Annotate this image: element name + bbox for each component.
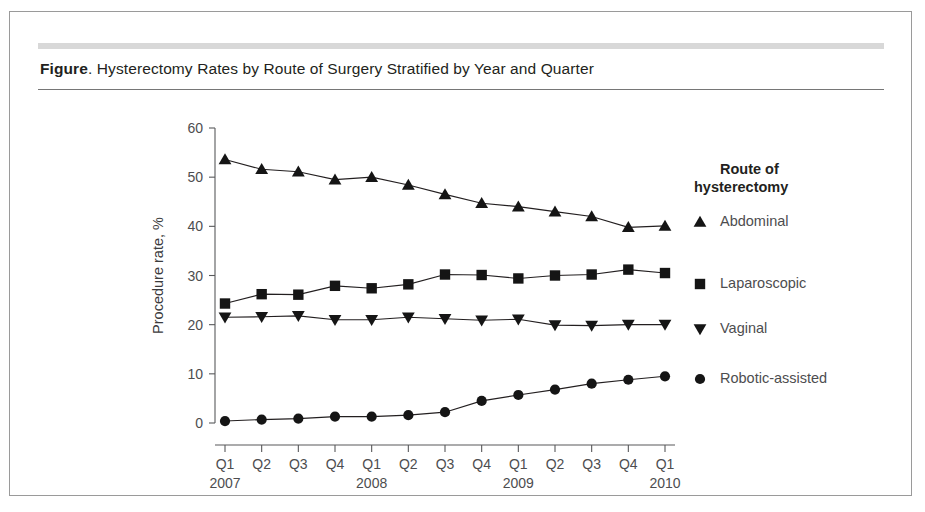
data-point-triangle-down: [365, 315, 378, 326]
series-vaginal: [219, 311, 672, 332]
data-point-circle: [440, 407, 450, 417]
data-point-circle: [587, 379, 597, 389]
data-point-circle: [550, 384, 560, 394]
y-axis-tick-label: 40: [187, 218, 203, 234]
x-axis-quarter-label: Q1: [656, 456, 675, 472]
x-axis-quarter-label: Q3: [436, 456, 455, 472]
x-axis-quarter-label: Q4: [472, 456, 491, 472]
x-axis-quarter-label: Q1: [216, 456, 235, 472]
data-point-circle: [257, 414, 267, 424]
series-abdominal: [219, 153, 672, 232]
data-point-circle: [660, 371, 670, 381]
figure-title: Figure. Hysterectomy Rates by Route of S…: [40, 59, 890, 79]
series-robotic-assisted: [220, 371, 670, 426]
data-point-triangle-down: [659, 320, 672, 331]
data-point-square: [660, 268, 670, 278]
legend-marker-robotic-assisted: [695, 374, 705, 384]
data-point-square: [586, 269, 596, 279]
data-point-square: [256, 289, 266, 299]
y-axis-tick-label: 20: [187, 317, 203, 333]
x-axis-quarter-label: Q4: [326, 456, 345, 472]
data-point-triangle-down: [219, 312, 232, 323]
data-point-triangle-up: [659, 220, 672, 231]
x-axis-quarter-label: Q3: [289, 456, 308, 472]
data-point-triangle-up: [219, 153, 232, 164]
data-point-square: [220, 298, 230, 308]
y-axis-tick-label: 60: [187, 120, 203, 136]
x-axis-quarter-label: Q3: [582, 456, 601, 472]
data-point-circle: [403, 410, 413, 420]
legend-marker-laparoscopic: [695, 279, 705, 289]
series-laparoscopic: [220, 264, 670, 308]
data-point-square: [293, 289, 303, 299]
data-point-square: [366, 283, 376, 293]
x-axis-year-label: 2009: [503, 475, 534, 491]
data-point-circle: [293, 413, 303, 423]
data-point-circle: [330, 412, 340, 422]
data-point-triangle-up: [365, 171, 378, 182]
data-point-circle: [220, 416, 230, 426]
legend-title-line-2: hysterectomy: [694, 179, 788, 195]
data-point-triangle-down: [475, 315, 488, 326]
data-point-triangle-down: [329, 315, 342, 326]
x-axis-quarter-label: Q2: [546, 456, 565, 472]
data-point-triangle-down: [255, 312, 268, 323]
x-axis-quarter-label: Q2: [252, 456, 271, 472]
y-axis-tick-label: 0: [195, 415, 203, 431]
x-axis-year-label: 2008: [356, 475, 387, 491]
data-point-square: [513, 273, 523, 283]
data-point-circle: [623, 375, 633, 385]
data-point-square: [476, 270, 486, 280]
legend-label-robotic-assisted: Robotic-assisted: [720, 370, 827, 386]
data-point-triangle-down: [549, 320, 562, 331]
data-point-square: [623, 264, 633, 274]
x-axis-quarter-label: Q2: [399, 456, 418, 472]
x-axis-year-label: 2007: [209, 475, 240, 491]
data-point-circle: [367, 412, 377, 422]
legend-label-laparoscopic: Laparoscopic: [720, 275, 806, 291]
data-point-circle: [513, 390, 523, 400]
data-point-circle: [477, 396, 487, 406]
figure-card: Figure. Hysterectomy Rates by Route of S…: [9, 11, 912, 496]
data-point-square: [330, 281, 340, 291]
x-axis-quarter-label: Q1: [362, 456, 381, 472]
y-axis-tick-label: 10: [187, 366, 203, 382]
data-point-square: [403, 279, 413, 289]
chart-plot-area: 0102030405060Procedure rate, %Q1Q2Q3Q4Q1…: [20, 92, 900, 492]
title-divider: [38, 89, 884, 90]
data-point-triangle-down: [622, 320, 635, 331]
legend-marker-abdominal: [694, 216, 707, 227]
legend-label-abdominal: Abdominal: [720, 213, 789, 229]
decorative-top-bar: [38, 43, 884, 49]
data-point-triangle-down: [585, 321, 598, 332]
legend-title-line-1: Route of: [720, 161, 779, 177]
legend-label-vaginal: Vaginal: [720, 320, 767, 336]
y-axis-tick-label: 50: [187, 169, 203, 185]
legend-marker-vaginal: [694, 324, 707, 335]
figure-title-text: . Hysterectomy Rates by Route of Surgery…: [88, 60, 594, 77]
y-axis-title: Procedure rate, %: [150, 217, 166, 334]
y-axis-tick-label: 30: [187, 268, 203, 284]
x-axis-quarter-label: Q4: [619, 456, 638, 472]
x-axis-year-label: 2010: [649, 475, 680, 491]
data-point-square: [440, 269, 450, 279]
line-chart: 0102030405060Procedure rate, %Q1Q2Q3Q4Q1…: [20, 92, 900, 492]
x-axis-quarter-label: Q1: [509, 456, 528, 472]
data-point-square: [550, 270, 560, 280]
figure-label: Figure: [40, 60, 88, 77]
